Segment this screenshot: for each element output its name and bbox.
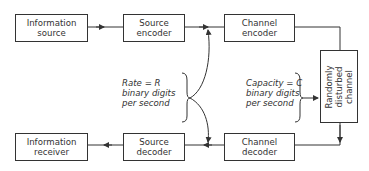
block-label: channel: [344, 65, 354, 108]
block-label: Channel: [242, 18, 277, 28]
block-label: Information: [27, 18, 77, 28]
block-label: Randomly: [324, 65, 334, 108]
capacity-annotation: Capacity = C binary digits per second: [246, 78, 302, 108]
block-label: encoder: [242, 28, 277, 38]
channel-encoder-block: Channelencoder: [224, 14, 295, 42]
rate-curve-up: [190, 30, 209, 98]
block-label: decoder: [242, 147, 277, 157]
channel-decoder-block: Channeldecoder: [224, 133, 295, 161]
rate-line: Rate = R: [122, 78, 175, 88]
block-label: Source: [136, 137, 171, 147]
rate-curve-down: [190, 98, 208, 142]
rate-brace: [182, 73, 190, 122]
capacity-line: per second: [246, 98, 302, 108]
block-label: source: [27, 28, 77, 38]
block-label: Source: [137, 18, 172, 28]
information-source-block: Informationsource: [15, 14, 88, 42]
rate-line: per second: [122, 98, 175, 108]
block-label: encoder: [137, 28, 172, 38]
channel-block: Randomlydisturbedchannel: [320, 50, 358, 123]
block-label: disturbed: [334, 65, 344, 108]
block-label: Information: [27, 137, 77, 147]
information-receiver-block: Informationreceiver: [15, 133, 88, 161]
capacity-line: binary digits: [246, 88, 302, 98]
rate-annotation: Rate = R binary digits per second: [122, 78, 175, 108]
source-encoder-block: Sourceencoder: [123, 14, 185, 42]
block-label: Channel: [242, 137, 277, 147]
block-label: receiver: [27, 147, 77, 157]
capacity-line: Capacity = C: [246, 78, 302, 88]
rate-line: binary digits: [122, 88, 175, 98]
wire-channel-out: [336, 122, 340, 145]
block-label: decoder: [136, 147, 171, 157]
source-decoder-block: Sourcedecoder: [123, 133, 185, 161]
